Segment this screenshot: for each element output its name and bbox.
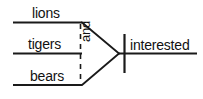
sentence-diagram: lions tigers bears and interested [0, 0, 203, 99]
subject-word-bears: bears [30, 69, 64, 83]
subject-word-tigers: tigers [28, 37, 61, 51]
conjunction-word-and: and [79, 21, 92, 42]
predicate-word-interested: interested [130, 38, 189, 52]
connector-bears-to-vertex [82, 54, 119, 86]
subject-word-lions: lions [32, 6, 60, 20]
